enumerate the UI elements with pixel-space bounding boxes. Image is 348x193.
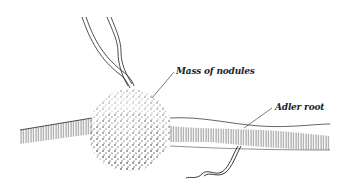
root-leader-line: [244, 108, 272, 128]
thin-rootlet: [186, 146, 241, 178]
upper-rootlets: [82, 17, 134, 88]
root-label: Adler root: [275, 102, 324, 112]
main-root-left: [20, 118, 92, 144]
root-nodule-illustration: Mass of nodules Adler root: [0, 0, 348, 193]
main-root-right: [170, 118, 330, 150]
nodules-leader-line: [152, 72, 174, 98]
illustration-canvas: [0, 0, 348, 193]
nodules-label: Mass of nodules: [176, 66, 255, 76]
nodule-mass: [89, 89, 171, 171]
